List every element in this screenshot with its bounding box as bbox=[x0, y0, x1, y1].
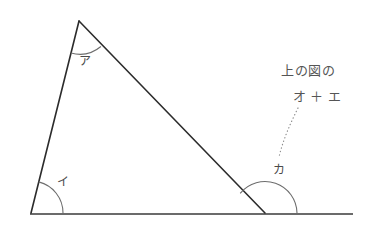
label-exterior-angle: カ bbox=[273, 164, 285, 176]
leader-dotted-line bbox=[279, 108, 298, 157]
annotation-line-2: オ ＋ エ bbox=[293, 86, 341, 107]
geometry-figure: ア イ カ 上の図の オ ＋ エ bbox=[0, 0, 379, 237]
label-apex-angle: ア bbox=[79, 55, 91, 67]
figure-canvas bbox=[0, 0, 379, 237]
triangle-left-side bbox=[31, 21, 79, 213]
label-base-angle: イ bbox=[57, 176, 69, 188]
annotation-line-1: 上の図の bbox=[281, 60, 335, 81]
triangle-hypotenuse bbox=[79, 21, 265, 213]
